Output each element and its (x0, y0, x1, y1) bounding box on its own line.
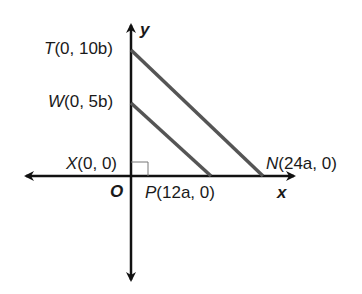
point-label-T: T(0, 10b) (44, 40, 113, 57)
origin-label: O (110, 183, 123, 200)
coordinate-diagram: y x O T(0, 10b) W(0, 5b) X(0, 0) P(12a, … (0, 0, 362, 294)
y-axis-label: y (140, 21, 149, 38)
point-label-W: W(0, 5b) (48, 93, 113, 110)
segment-TN (131, 50, 263, 176)
point-label-X: X(0, 0) (66, 155, 117, 172)
x-axis-label: x (277, 184, 286, 201)
right-angle-mark (131, 162, 148, 176)
point-label-N: N(24a, 0) (266, 155, 337, 172)
point-label-P: P(12a, 0) (145, 184, 215, 201)
